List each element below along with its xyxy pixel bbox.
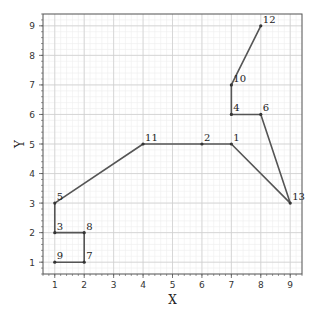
data-point-label: 6: [263, 102, 269, 113]
y-tick-label: 5: [29, 140, 35, 150]
x-tick-label: 2: [81, 280, 87, 290]
y-tick-label: 1: [29, 258, 35, 268]
y-tick-label: 7: [29, 80, 35, 90]
data-point-label: 11: [145, 132, 158, 143]
x-tick-label: 7: [228, 280, 234, 290]
x-tick-label: 5: [170, 280, 176, 290]
data-point-label: 13: [292, 191, 305, 202]
y-tick-label: 9: [29, 21, 35, 31]
data-point-label: 3: [57, 221, 63, 232]
y-tick-label: 3: [29, 199, 35, 209]
x-tick-label: 8: [258, 280, 264, 290]
x-tick-label: 3: [111, 280, 117, 290]
y-axis-label: Y: [13, 139, 27, 149]
chart: 123456789123456789 97835112113641012 X Y: [0, 0, 318, 314]
y-tick-label: 4: [29, 169, 35, 179]
x-tick-label: 4: [140, 280, 146, 290]
data-point-label: 12: [263, 14, 276, 25]
data-point-label: 4: [233, 102, 239, 113]
x-axis-label: X: [168, 293, 177, 307]
data-point-label: 2: [204, 132, 210, 143]
data-point-label: 5: [57, 191, 63, 202]
x-tick-label: 1: [52, 280, 58, 290]
y-tick-label: 6: [29, 110, 35, 120]
data-point-label: 10: [233, 73, 246, 84]
x-tick-label: 6: [199, 280, 205, 290]
x-tick-label: 9: [287, 280, 293, 290]
data-point-label: 8: [86, 221, 92, 232]
data-point-label: 1: [233, 132, 239, 143]
data-point-label: 7: [86, 250, 92, 261]
data-point-label: 9: [57, 250, 63, 261]
y-tick-label: 2: [29, 228, 35, 238]
y-tick-label: 8: [29, 51, 35, 61]
